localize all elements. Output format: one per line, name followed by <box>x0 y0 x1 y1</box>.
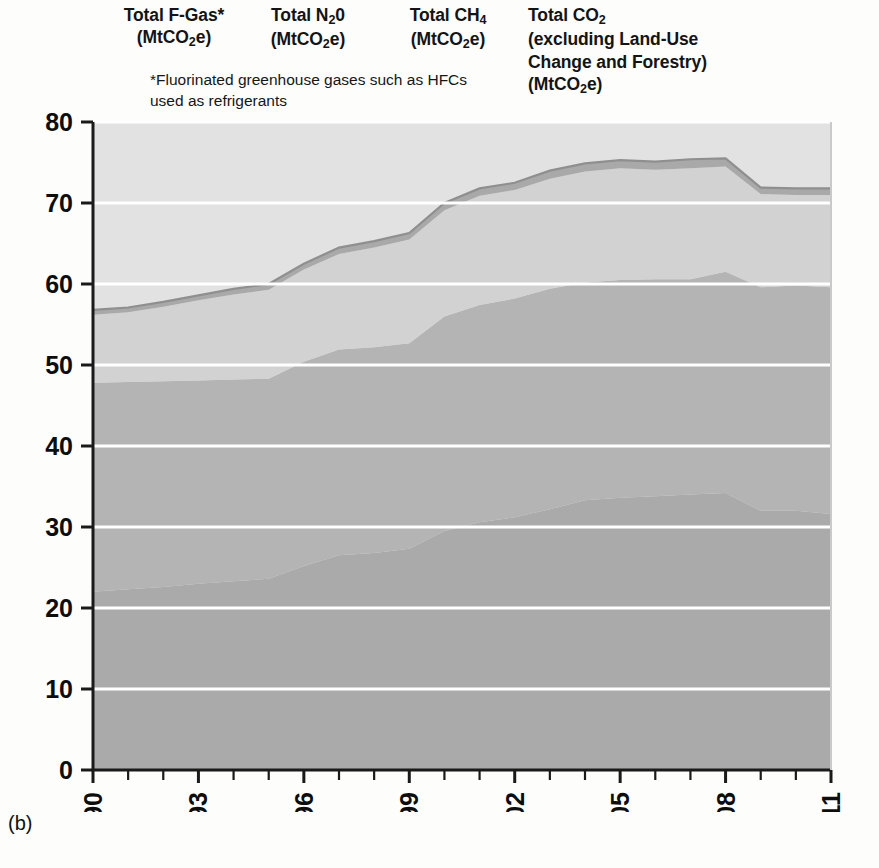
legend-label-co2-line1: Total CO2 <box>528 4 798 28</box>
x-tick-label-2005: 2005 <box>606 792 634 812</box>
legend-item-n2o: Total N20 (MtCO2e) <box>248 4 368 52</box>
legend-label-co2-line4: (MtCO2e) <box>528 73 798 97</box>
x-axis-ticks: 19901993199619992002200520082011 <box>79 770 845 812</box>
legend-label-ch4-line1: Total CH4 <box>388 4 508 28</box>
legend-label-n2o-line2: (MtCO2e) <box>248 28 368 52</box>
legend-label-f-gas-line1: Total F-Gas* <box>108 4 240 26</box>
x-tick-label-2008: 2008 <box>712 792 740 812</box>
x-tick-label-1999: 1999 <box>395 792 423 812</box>
y-tick-label-60: 60 <box>45 270 73 298</box>
legend-item-ch4: Total CH4 (MtCO2e) <box>388 4 508 52</box>
legend-item-co2: Total CO2 (excluding Land-Use Change and… <box>528 4 798 97</box>
legend-footnote: *Fluorinated greenhouse gases such as HF… <box>150 70 480 112</box>
legend-label-co2-line2: (excluding Land-Use <box>528 28 798 50</box>
legend-label-n2o-line1: Total N20 <box>248 4 368 28</box>
y-tick-label-40: 40 <box>45 432 73 460</box>
y-tick-label-30: 30 <box>45 513 73 541</box>
panel-letter: (b) <box>8 812 32 835</box>
x-tick-label-1993: 1993 <box>184 792 212 812</box>
y-tick-label-80: 80 <box>45 112 73 136</box>
legend-label-f-gas-line2: (MtCO2e) <box>108 26 240 50</box>
chart-area: 01020304050607080 1990199319961999200220… <box>0 112 879 812</box>
legend: Total F-Gas* (MtCO2e) Total N20 (MtCO2e)… <box>0 0 879 118</box>
x-tick-label-1990: 1990 <box>79 792 107 812</box>
y-tick-label-0: 0 <box>59 756 73 784</box>
figure-panel: Total F-Gas* (MtCO2e) Total N20 (MtCO2e)… <box>0 0 879 868</box>
y-tick-label-20: 20 <box>45 594 73 622</box>
y-tick-label-70: 70 <box>45 189 73 217</box>
x-tick-label-2002: 2002 <box>501 792 529 812</box>
legend-item-f-gas: Total F-Gas* (MtCO2e) <box>108 4 240 51</box>
y-tick-label-50: 50 <box>45 351 73 379</box>
legend-label-ch4-line2: (MtCO2e) <box>388 28 508 52</box>
y-axis-ticks: 01020304050607080 <box>45 112 93 784</box>
stacked-area-chart: 01020304050607080 1990199319961999200220… <box>0 112 879 812</box>
x-tick-label-1996: 1996 <box>290 792 318 812</box>
legend-label-co2-line3: Change and Forestry) <box>528 51 798 73</box>
y-tick-label-10: 10 <box>45 675 73 703</box>
x-tick-label-2011: 2011 <box>817 792 845 812</box>
